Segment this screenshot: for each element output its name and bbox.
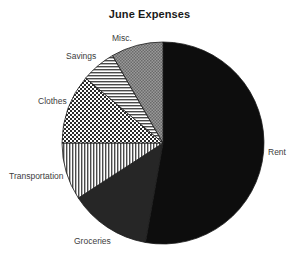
pie-chart-canvas <box>0 0 299 261</box>
pie-slices <box>62 42 264 244</box>
pie-chart-figure: June Expenses Rent Grocer <box>0 0 299 261</box>
slice-label-rent: Rent <box>268 147 286 157</box>
slice-label-misc: Misc. <box>112 33 132 43</box>
slice-label-transportation: Transportation <box>9 171 64 181</box>
slice-label-groceries: Groceries <box>74 236 111 246</box>
slice-label-savings: Savings <box>66 51 96 61</box>
slice-label-clothes: Clothes <box>38 96 67 106</box>
